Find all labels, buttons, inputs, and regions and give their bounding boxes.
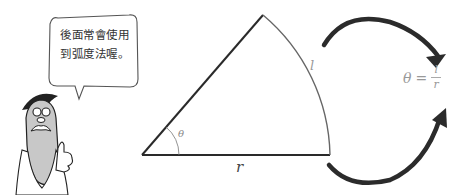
arc-length-label: l <box>310 58 314 73</box>
arrow-radius-to-denominator <box>329 108 447 183</box>
speech-bubble-text: 後面常會使用 到弧度法喔。 <box>60 26 140 64</box>
formula-equals: = <box>415 70 427 86</box>
formula-denominator: r <box>434 79 439 91</box>
sector-diagram <box>142 15 330 155</box>
angle-label: θ <box>178 128 184 139</box>
speech-line-2: 到弧度法喔。 <box>60 45 140 64</box>
radius-label: r <box>236 158 243 176</box>
formula-numerator: l <box>434 64 438 76</box>
professor-character <box>16 94 73 195</box>
radian-formula: θ = l r <box>403 64 441 91</box>
speech-line-1: 後面常會使用 <box>60 26 140 45</box>
formula-theta: θ <box>403 70 411 86</box>
formula-fraction: l r <box>431 64 441 91</box>
arrow-arc-to-numerator <box>324 19 446 68</box>
